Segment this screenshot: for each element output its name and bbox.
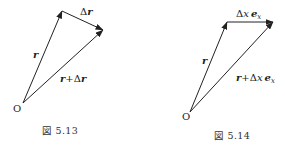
origin-label: O bbox=[182, 112, 190, 122]
delta-r-label: Δr bbox=[80, 7, 93, 17]
subscript: x bbox=[271, 77, 275, 85]
figure-caption: 図 5.13 bbox=[42, 126, 78, 136]
delta-x-ex-label: Δx ex bbox=[236, 9, 261, 21]
sum-vector-arrow bbox=[190, 22, 273, 112]
vector-r-label: r bbox=[33, 50, 38, 60]
vector-symbol: r bbox=[81, 73, 86, 84]
variable-symbol: x bbox=[257, 72, 263, 83]
vector-r-label: r bbox=[202, 56, 207, 66]
origin-label: O bbox=[13, 104, 21, 114]
plus-delta-symbol: +Δ bbox=[65, 73, 81, 84]
vector-r-arrow bbox=[23, 11, 62, 103]
figure-5-14-arrows bbox=[190, 22, 273, 112]
sum-vector-label: r+Δr bbox=[60, 74, 86, 84]
vector-diagrams: Δr r r+Δr O 図 5.13 Δx ex r r+Δx ex O 図 5… bbox=[0, 0, 285, 146]
plus-delta-symbol: +Δ bbox=[241, 72, 257, 83]
variable-symbol: x bbox=[243, 8, 249, 19]
sum-vector-label: r+Δx ex bbox=[236, 73, 275, 85]
sum-vector-arrow bbox=[23, 30, 103, 103]
subscript: x bbox=[257, 13, 261, 21]
figure-caption: 図 5.14 bbox=[214, 131, 250, 141]
vector-symbol: r bbox=[87, 6, 92, 17]
vector-r-arrow bbox=[190, 22, 227, 112]
